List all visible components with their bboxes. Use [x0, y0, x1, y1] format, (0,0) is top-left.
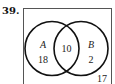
- set-a-only-count: 18: [38, 54, 48, 65]
- set-a-label: A: [39, 39, 47, 50]
- intersection-count: 10: [62, 43, 72, 54]
- venn-diagram: A 18 10 B 2 17: [0, 0, 115, 84]
- outside-count: 17: [97, 73, 107, 84]
- set-b-only-count: 2: [89, 54, 94, 65]
- set-b-label: B: [88, 39, 94, 50]
